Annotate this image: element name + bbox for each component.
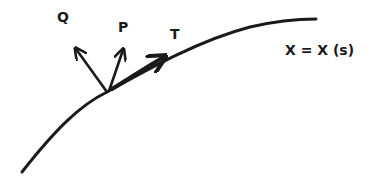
vector-t-label: T	[170, 27, 180, 41]
curve-equation-label: X = X (s)	[285, 43, 354, 57]
diagram-canvas	[0, 0, 386, 186]
vector-p-label: P	[118, 20, 128, 34]
space-curve	[22, 19, 316, 172]
vector-q-arrow	[76, 49, 107, 92]
vector-q-label: Q	[57, 10, 69, 24]
